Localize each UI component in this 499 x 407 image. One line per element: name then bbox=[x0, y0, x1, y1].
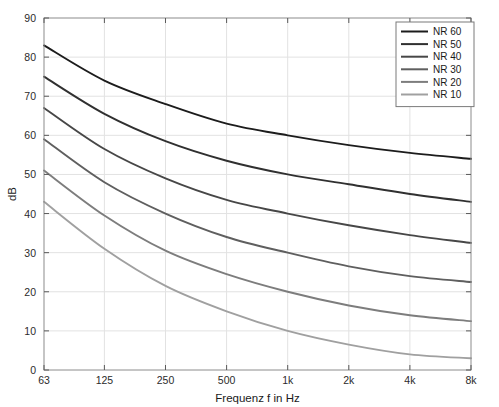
figure-canvas: 631252505001k2k4k8k 0102030405060708090 … bbox=[0, 0, 499, 407]
y-tick-label: 0 bbox=[30, 364, 36, 376]
x-tick-label: 500 bbox=[218, 374, 236, 386]
x-tick-label: 63 bbox=[38, 374, 50, 386]
legend-label: NR 20 bbox=[433, 77, 462, 88]
y-tick-label: 80 bbox=[24, 51, 36, 63]
legend-label: NR 30 bbox=[433, 64, 462, 75]
y-tick-label: 70 bbox=[24, 90, 36, 102]
y-tick-label: 20 bbox=[24, 286, 36, 298]
y-tick-label: 40 bbox=[24, 208, 36, 220]
y-tick-label: 90 bbox=[24, 12, 36, 24]
x-tick-label: 250 bbox=[157, 374, 175, 386]
x-tick-label: 2k bbox=[343, 374, 355, 386]
x-axis-title: Frequenz f in Hz bbox=[215, 392, 300, 404]
y-axis-title: dB bbox=[6, 187, 18, 201]
x-tick-label: 1k bbox=[282, 374, 294, 386]
legend-label: NR 10 bbox=[433, 89, 462, 100]
nr-curves-chart: 631252505001k2k4k8k 0102030405060708090 … bbox=[0, 0, 499, 407]
legend-label: NR 60 bbox=[433, 26, 462, 37]
legend-label: NR 40 bbox=[433, 51, 462, 62]
y-tick-label: 10 bbox=[24, 325, 36, 337]
y-tick-label: 30 bbox=[24, 247, 36, 259]
legend[interactable]: NR 60NR 50NR 40NR 30NR 20NR 10 bbox=[396, 22, 474, 107]
x-tick-label: 8k bbox=[465, 374, 477, 386]
x-tick-label: 4k bbox=[404, 374, 416, 386]
x-tick-label: 125 bbox=[96, 374, 114, 386]
y-tick-label: 60 bbox=[24, 129, 36, 141]
y-tick-label: 50 bbox=[24, 168, 36, 180]
legend-label: NR 50 bbox=[433, 39, 462, 50]
